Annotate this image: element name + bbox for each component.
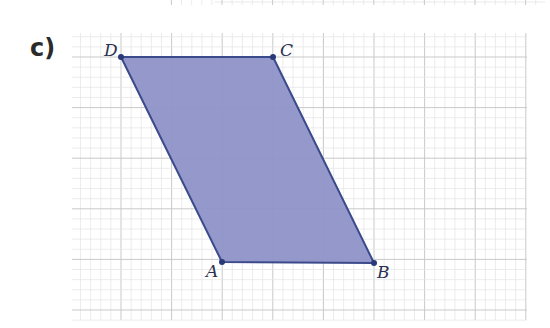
vertex-label-d: D <box>104 42 118 59</box>
vertex-label-a: A <box>206 263 218 280</box>
partial-grid-strip <box>171 0 545 5</box>
grid-canvas <box>0 0 550 328</box>
vertex-point-a <box>219 259 225 265</box>
vertex-label-c: C <box>280 42 293 59</box>
part-label: c) <box>30 34 55 62</box>
vertex-point-d <box>118 54 124 60</box>
vertex-label-b: B <box>377 264 390 281</box>
grid-figure: c) A B C D <box>0 0 550 328</box>
vertex-point-c <box>270 54 276 60</box>
parallelogram-abcd <box>121 57 374 263</box>
